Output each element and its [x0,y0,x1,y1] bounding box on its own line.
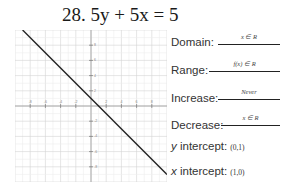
decrease-row: Decrease: [171,119,223,131]
y-intercept-row: y intercept:(0,1) [171,140,245,152]
svg-text:-2: -2 [94,119,97,123]
range-answer: f(x) ∈ R [209,59,280,72]
svg-text:-4: -4 [94,134,97,138]
problem-title: 28. 5y + 5x = 5 [62,4,178,26]
svg-text:-4: -4 [59,100,62,104]
graph-canvas: -8-6-4-224688642-2-4-6-8 [15,30,167,182]
svg-text:4: 4 [120,100,122,104]
svg-text:-2: -2 [74,100,77,104]
svg-text:2: 2 [94,89,96,93]
svg-text:6: 6 [94,58,96,62]
x-intercept-row: x intercept:(1,0) [171,165,245,177]
increase-row: Increase: [171,92,218,104]
decrease-answer: x ∈ R [221,113,280,126]
svg-text:-6: -6 [94,150,97,154]
svg-text:8: 8 [151,100,153,104]
decrease-label: Decrease: [171,119,223,131]
y-intercept-label: intercept: [177,140,228,152]
svg-text:2: 2 [105,100,107,104]
increase-answer: Never [218,87,280,100]
domain-label: Domain: [171,36,214,48]
svg-text:-8: -8 [29,100,32,104]
svg-text:4: 4 [94,74,96,78]
x-intercept-value: (1,0) [230,168,244,177]
x-intercept-label: intercept: [177,165,228,177]
increase-label: Increase: [171,92,218,104]
coordinate-graph: -8-6-4-224688642-2-4-6-8 [15,30,167,182]
range-row: Range: [171,64,208,76]
y-intercept-value: (0,1) [230,143,244,152]
svg-text:6: 6 [136,100,138,104]
range-label: Range: [171,64,208,76]
domain-answer: x ∈ R [218,32,280,45]
svg-text:8: 8 [94,43,96,47]
domain-row: Domain: [171,36,214,48]
svg-text:-8: -8 [94,165,97,169]
svg-text:-6: -6 [44,100,47,104]
